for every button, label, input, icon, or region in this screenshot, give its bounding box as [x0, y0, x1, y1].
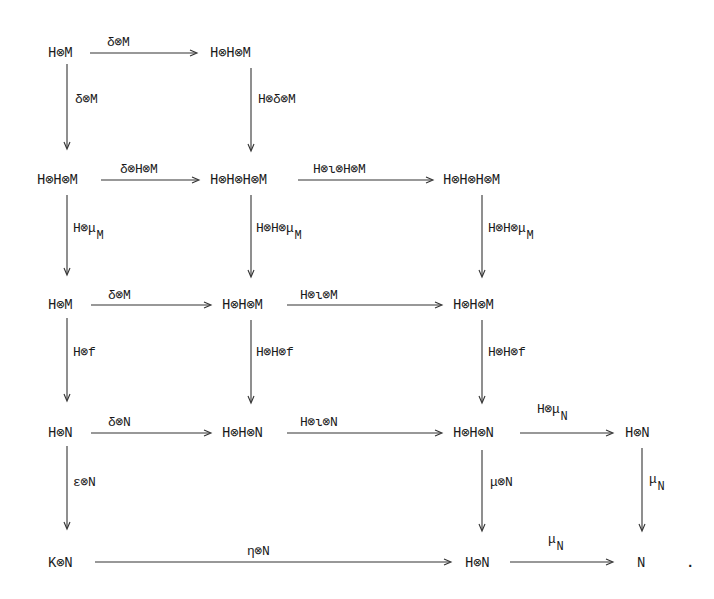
label-subscript: M	[97, 229, 104, 243]
label-text: H⊗μ	[537, 402, 560, 417]
label-r4-h2: H⊗ι⊗N	[300, 416, 338, 430]
node-r5c3: H⊗N	[465, 555, 489, 571]
label-subscript: N	[658, 480, 665, 494]
label-r4-h1: δ⊗N	[108, 416, 131, 430]
label-text: H⊗H⊗μ	[488, 221, 526, 236]
label-subscript: N	[557, 540, 564, 554]
label-r4c1-down: ε⊗N	[73, 476, 96, 490]
label-r2-h1: δ⊗H⊗M	[120, 163, 158, 177]
label-text: μ	[649, 472, 657, 487]
node-r4c2: H⊗H⊗N	[222, 425, 263, 441]
node-r3c3: H⊗H⊗M	[453, 297, 494, 313]
label-r5-h2: μN	[548, 533, 563, 554]
label-r2c2-down: H⊗H⊗μM	[256, 222, 301, 243]
label-r3c2-down: H⊗H⊗f	[256, 346, 294, 360]
label-text: μ	[548, 532, 556, 547]
node-r5c1: K⊗N	[48, 555, 72, 571]
label-r5-h1: η⊗N	[247, 545, 270, 559]
label-r2-h2: H⊗ι⊗H⊗M	[313, 163, 366, 177]
node-r5c4: N	[637, 555, 645, 571]
node-r4c4: H⊗N	[625, 425, 649, 441]
node-r4c3: H⊗H⊗N	[453, 425, 494, 441]
label-r1c2-down: H⊗δ⊗M	[258, 93, 296, 107]
label-r3-h1: δ⊗M	[108, 289, 131, 303]
label-text: H⊗μ	[73, 221, 96, 236]
label-r4-h3: H⊗μN	[537, 403, 567, 424]
label-r3-h2: H⊗ι⊗M	[300, 289, 338, 303]
node-r4c1: H⊗N	[48, 425, 72, 441]
period: .	[686, 555, 694, 571]
label-r2c3-down: H⊗H⊗μM	[488, 222, 533, 243]
label-subscript: M	[527, 229, 534, 243]
label-r3c1-down: H⊗f	[73, 346, 96, 360]
label-r4c3-down: μ⊗N	[490, 476, 513, 490]
label-r1-h1: δ⊗M	[107, 36, 130, 50]
label-r1c1-down: δ⊗M	[75, 93, 98, 107]
node-r2c3: H⊗H⊗H⊗M	[443, 172, 500, 188]
label-subscript: N	[561, 410, 568, 424]
label-r2c1-down: H⊗μM	[73, 222, 103, 243]
node-r1c2: H⊗H⊗M	[210, 45, 251, 61]
node-r2c2: H⊗H⊗H⊗M	[210, 172, 267, 188]
label-text: H⊗H⊗μ	[256, 221, 294, 236]
node-r3c2: H⊗H⊗M	[222, 297, 263, 313]
node-r3c1: H⊗M	[48, 297, 72, 313]
label-r3c3-down: H⊗H⊗f	[488, 346, 526, 360]
label-subscript: M	[295, 229, 302, 243]
node-r1c1: H⊗M	[48, 45, 72, 61]
node-r2c1: H⊗H⊗M	[37, 172, 78, 188]
label-r4c4-down: μN	[649, 473, 664, 494]
